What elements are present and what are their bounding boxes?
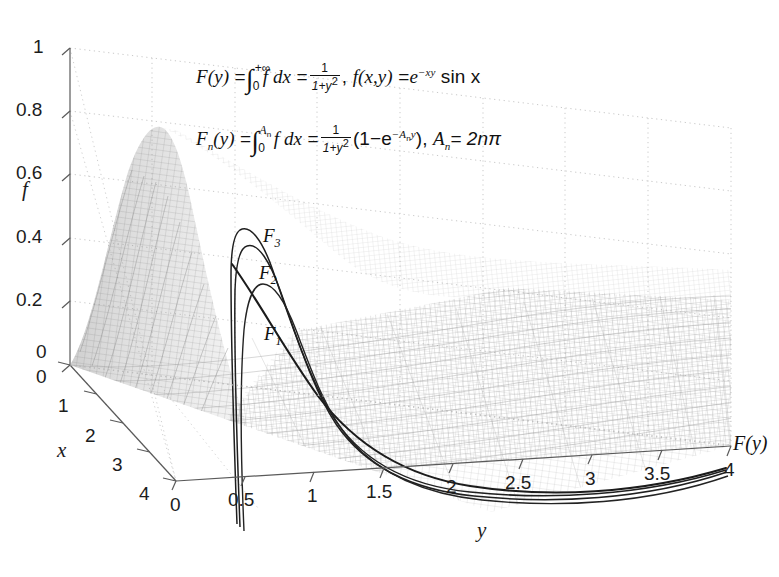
curve-label-F3-sub: 3 <box>275 236 281 250</box>
y-tick-1-5: 1.5 <box>366 481 392 503</box>
y-tick-3: 3 <box>585 468 596 490</box>
eq1-frac-den-exp: 2 <box>332 75 338 87</box>
integral-sign-2: ∫An0 <box>251 131 268 150</box>
x-tick-0: 0 <box>36 366 47 388</box>
eq2-upper-sub: n <box>267 130 272 139</box>
y-tick-1: 1 <box>307 485 318 507</box>
eq1-upper: +∞ <box>255 61 271 75</box>
z-tick-0-2: 0.2 <box>16 289 42 311</box>
integral-sign-1: ∫+∞0 <box>246 69 263 88</box>
eq1-frac-den: 1+y <box>312 79 332 93</box>
eq2-upper: A <box>259 123 266 137</box>
curve-label-F3: F3 <box>263 225 281 251</box>
curve-label-F1-sub: 1 <box>276 334 282 348</box>
eq1-exp: −xy <box>418 66 436 78</box>
eq1-second-lhs: f(x,y) <box>353 66 393 87</box>
eq2-lhs: F <box>196 128 208 149</box>
eq1-equals-2: = <box>296 66 307 87</box>
eq2-integrand: f dx <box>274 128 302 149</box>
eq1-frac-num: 1 <box>310 62 340 75</box>
curve-label-F1-base: F <box>264 323 276 344</box>
z-tick-0-4: 0.4 <box>16 226 42 248</box>
curve-label-F2: F2 <box>259 262 277 288</box>
curve-label-F2-base: F <box>259 262 271 283</box>
eq2-paren-close: ), <box>416 128 428 149</box>
z-tick-0-6: 0.6 <box>16 162 42 184</box>
curve-label-F3-base: F <box>263 225 275 246</box>
eq2-equals-1: = <box>240 128 251 149</box>
x-tick-1: 1 <box>58 395 69 417</box>
equation-2: Fn(y) =∫An0 f dx =11+y2(1−e−Any), An= 2n… <box>196 125 501 155</box>
eq2-frac-num: 1 <box>321 124 351 137</box>
y-tick-2-5: 2.5 <box>505 472 531 494</box>
y-tick-0: 0 <box>170 494 181 516</box>
z-tick-0-8: 0.8 <box>16 99 42 121</box>
eq2-equals-2: = <box>307 128 318 149</box>
z-axis-label: f <box>22 177 28 202</box>
y-tick-3-5: 3.5 <box>644 463 670 485</box>
eq2-paren-exp: −A <box>392 128 406 140</box>
x-tick-3: 3 <box>112 454 123 476</box>
eq1-comma: , <box>342 66 347 87</box>
z-tick-1: 1 <box>33 36 44 58</box>
y-tick-0-5: 0.5 <box>228 489 254 511</box>
eq2-lower: 0 <box>258 141 265 155</box>
y-tick-4: 4 <box>724 459 735 481</box>
eq2-frac-den: 1+y <box>323 141 343 155</box>
curve-label-Fy: F(y) <box>733 432 767 455</box>
y-tick-2: 2 <box>446 476 457 498</box>
eq2-lhs-tail: (y) <box>213 128 234 149</box>
eq2-paren-open: (1−e−Any), <box>353 128 428 149</box>
curve-label-F2-sub: 2 <box>271 273 277 287</box>
x-tick-2: 2 <box>85 425 96 447</box>
eq1-lower: 0 <box>253 79 260 93</box>
eq1-equals-3: = <box>398 66 409 87</box>
x-tick-4: 4 <box>139 483 150 505</box>
z-axis-ticks <box>62 48 70 372</box>
y-axis-label: y <box>477 518 486 543</box>
eq1-lhs: F(y) <box>196 66 229 87</box>
x-axis-label: x <box>57 438 66 463</box>
eq2-an-lhs: A <box>433 128 445 149</box>
curve-label-F1: F1 <box>264 323 282 349</box>
eq2-frac-den-exp: 2 <box>343 137 349 149</box>
eq1-equals-1: = <box>234 66 245 87</box>
eq2-an-rhs: = 2nπ <box>450 128 501 149</box>
equation-1: F(y) =∫+∞0f dx =11+y2, f(x,y) =e−xy sin … <box>196 63 480 93</box>
z-tick-0: 0 <box>36 341 47 363</box>
eq2-fraction: 11+y2 <box>321 124 351 154</box>
eq1-fraction: 11+y2 <box>310 62 340 92</box>
eq1-sin: sin x <box>441 66 481 87</box>
figure-canvas: 1 0.8 0.6 0.4 0.2 0 f 0 1 2 3 4 x 0 0.5 … <box>0 0 779 577</box>
eq1-exp-base: e <box>409 66 418 87</box>
